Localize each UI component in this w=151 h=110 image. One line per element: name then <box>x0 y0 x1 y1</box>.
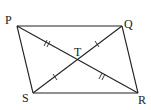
label-s: S <box>22 91 29 105</box>
diagram-canvas: P Q S R T <box>0 0 151 110</box>
label-t: T <box>74 45 82 59</box>
side-qr <box>122 26 138 93</box>
label-p: P <box>5 13 12 27</box>
diagonal-qs <box>33 26 122 93</box>
side-sp <box>17 26 33 93</box>
label-q: Q <box>124 17 133 31</box>
label-r: R <box>138 93 146 107</box>
parallelogram-diagram: P Q S R T <box>0 0 151 110</box>
